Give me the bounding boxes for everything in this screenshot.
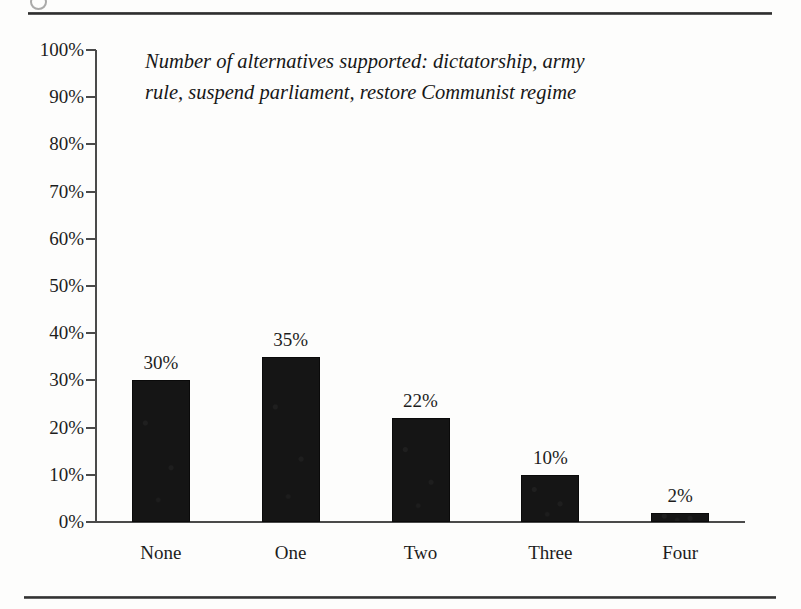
y-axis-tick-label: 30%: [0, 370, 84, 389]
y-axis-tick-label: 90%: [0, 87, 84, 106]
y-axis-tick: [86, 474, 96, 476]
chart-title-line-1: Number of alternatives supported: dictat…: [145, 46, 705, 77]
y-axis-tick: [86, 143, 96, 145]
y-axis-tick: [86, 332, 96, 334]
x-axis-category-label: Two: [351, 543, 491, 563]
y-axis-tick: [86, 427, 96, 429]
y-axis-tick-label: 10%: [0, 465, 84, 484]
y-axis-tick-label-text: 80%: [14, 134, 84, 153]
y-axis-tick-label-text: 40%: [14, 323, 84, 342]
bar: [521, 475, 579, 522]
y-axis-tick-label: 80%: [0, 134, 84, 153]
chart-title: Number of alternatives supported: dictat…: [145, 46, 705, 108]
bar-chart: Number of alternatives supported: dictat…: [0, 0, 801, 609]
y-axis-tick: [86, 49, 96, 51]
y-axis-tick: [86, 238, 96, 240]
y-axis-tick-label: 60%: [0, 229, 84, 248]
bar-value-label: 35%: [231, 330, 351, 349]
x-axis-category-label: Three: [480, 543, 620, 563]
bar: [651, 513, 709, 522]
y-axis-tick: [86, 379, 96, 381]
bar-value-label: 2%: [620, 486, 740, 505]
y-axis-tick: [86, 96, 96, 98]
y-axis-tick-label-text: 100%: [14, 40, 84, 59]
y-axis-tick-label: 50%: [0, 276, 84, 295]
bar-value-label: 22%: [361, 391, 481, 410]
y-axis-tick-label-text: 0%: [14, 512, 84, 531]
y-axis-tick-label: 100%: [0, 40, 84, 59]
y-axis-tick-label: 40%: [0, 323, 84, 342]
bar-value-label: 10%: [490, 448, 610, 467]
y-axis-tick-label-text: 20%: [14, 418, 84, 437]
y-axis-tick: [86, 285, 96, 287]
bar: [262, 357, 320, 522]
y-axis-tick-label-text: 60%: [14, 229, 84, 248]
bar: [392, 418, 450, 522]
y-axis-tick-label: 70%: [0, 182, 84, 201]
bar: [132, 380, 190, 522]
y-axis-tick-label-text: 50%: [14, 276, 84, 295]
bar-value-label: 30%: [101, 353, 221, 372]
x-axis-category-label: One: [221, 543, 361, 563]
y-axis-tick: [86, 521, 96, 523]
y-axis-tick-label-text: 90%: [14, 87, 84, 106]
y-axis-tick-label-text: 10%: [14, 465, 84, 484]
y-axis-tick-label-text: 30%: [14, 370, 84, 389]
y-axis-tick-label-text: 70%: [14, 182, 84, 201]
y-axis-tick: [86, 191, 96, 193]
y-axis-tick-label: 20%: [0, 418, 84, 437]
chart-title-line-2: rule, suspend parliament, restore Commun…: [145, 77, 705, 108]
x-axis-category-label: None: [91, 543, 231, 563]
y-axis-tick-label: 0%: [0, 512, 84, 531]
x-axis-category-label: Four: [610, 543, 750, 563]
figure-page: Number of alternatives supported: dictat…: [0, 0, 801, 609]
